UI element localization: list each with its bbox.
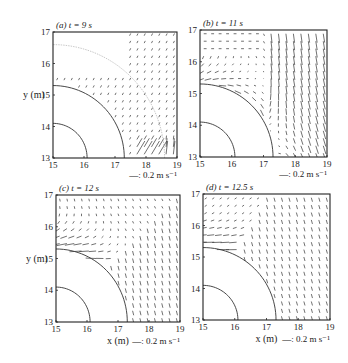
panel-title: (d) t = 12.5 s bbox=[206, 182, 254, 192]
x-axis-label: x (m) bbox=[107, 335, 129, 347]
x-tick-label: 17 bbox=[259, 159, 269, 169]
y-tick-label: 16 bbox=[44, 222, 54, 232]
y-tick-label: 14 bbox=[41, 122, 51, 132]
x-tick-label: 19 bbox=[326, 322, 336, 332]
y-tick-label: 17 bbox=[41, 27, 51, 37]
y-tick-label: 15 bbox=[191, 252, 201, 262]
x-tick-label: 16 bbox=[230, 322, 240, 332]
x-tick-label: 19 bbox=[173, 160, 183, 170]
x-tick-label: 19 bbox=[323, 159, 333, 169]
y-tick-label: 13 bbox=[191, 315, 201, 325]
x-tick-label: 17 bbox=[111, 160, 121, 170]
reference-vector-label: —: 0.2 m s⁻¹ bbox=[131, 336, 180, 346]
x-tick-label: 17 bbox=[262, 322, 272, 332]
vector-field bbox=[49, 199, 178, 323]
x-tick-label: 18 bbox=[142, 160, 152, 170]
reference-vector-label: —: 0.2 m s⁻¹ bbox=[281, 334, 330, 344]
y-tick-label: 13 bbox=[44, 317, 54, 327]
y-tick-label: 13 bbox=[188, 152, 198, 162]
reference-vector-label: —: 0.2 m s⁻¹ bbox=[128, 170, 177, 180]
y-tick-label: 15 bbox=[188, 89, 198, 99]
y-tick-label: 17 bbox=[191, 189, 201, 199]
y-tick-label: 16 bbox=[41, 59, 51, 69]
contour-line bbox=[200, 84, 273, 157]
contour-line bbox=[53, 86, 124, 158]
contour-line bbox=[203, 285, 238, 320]
x-tick-label: 18 bbox=[291, 159, 301, 169]
panel-a: 15161718191314151617(a) t = 9 sy (m)—: 0… bbox=[23, 20, 182, 180]
y-tick-label: 17 bbox=[188, 25, 198, 35]
x-tick-label: 17 bbox=[114, 324, 124, 334]
y-tick-label: 17 bbox=[44, 190, 54, 200]
contour-line bbox=[53, 123, 87, 158]
contour-line bbox=[56, 287, 90, 322]
contour-line bbox=[200, 122, 235, 157]
contour-line bbox=[203, 248, 276, 320]
vector-field bbox=[57, 33, 175, 154]
vector-field bbox=[197, 34, 326, 162]
x-tick-label: 18 bbox=[145, 324, 155, 334]
x-tick-label: 19 bbox=[176, 324, 186, 334]
x-tick-label: 16 bbox=[227, 159, 237, 169]
x-tick-label: 18 bbox=[294, 322, 304, 332]
y-tick-label: 14 bbox=[188, 120, 198, 130]
panel-b: 15161718191314151617(b) t = 11 s—: 0.2 m… bbox=[188, 18, 332, 179]
panel-title: (a) t = 9 s bbox=[56, 20, 93, 30]
panel-d: 15161718191314151617(d) t = 12.5 sx (m)—… bbox=[191, 182, 335, 345]
vector-field bbox=[196, 198, 327, 321]
y-tick-label: 14 bbox=[44, 285, 54, 295]
y-tick-label: 16 bbox=[188, 57, 198, 67]
x-tick-label: 16 bbox=[83, 324, 93, 334]
contour-line bbox=[56, 249, 127, 322]
reference-vector-label: —: 0.2 m s⁻¹ bbox=[278, 169, 327, 179]
y-tick-label: 16 bbox=[191, 221, 201, 231]
y-axis-label: y (m) bbox=[26, 253, 48, 265]
panel-title: (c) t = 12 s bbox=[59, 183, 100, 193]
panel-title: (b) t = 11 s bbox=[203, 18, 243, 28]
y-axis-label: y (m) bbox=[23, 89, 45, 101]
panel-c: 15161718191314151617(c) t = 12 sy (m)x (… bbox=[26, 183, 185, 347]
y-tick-label: 13 bbox=[41, 153, 51, 163]
x-tick-label: 16 bbox=[80, 160, 90, 170]
quiver-figure: 15161718191314151617(a) t = 9 sy (m)—: 0… bbox=[0, 0, 348, 363]
x-axis-label: x (m) bbox=[256, 333, 278, 345]
y-tick-label: 14 bbox=[191, 284, 201, 294]
